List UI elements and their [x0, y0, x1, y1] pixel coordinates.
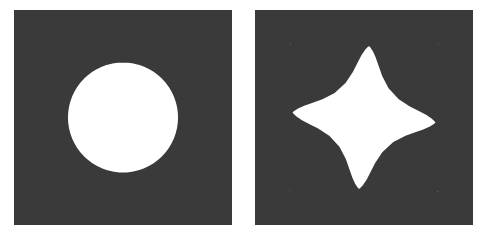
mesh-panel-undeformed-mesh [14, 10, 232, 225]
mesh-panel-deformed-mesh [255, 10, 473, 225]
figure-root [0, 0, 488, 242]
mesh-svg [14, 10, 232, 225]
mesh-svg [255, 10, 473, 225]
